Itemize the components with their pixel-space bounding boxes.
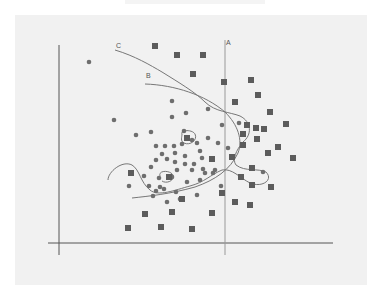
circle-point (174, 190, 179, 195)
square-point (255, 92, 261, 98)
square-point (221, 79, 227, 85)
circle-point (162, 187, 167, 192)
circle-point (149, 165, 154, 170)
circle-point (112, 118, 117, 123)
circle-point (192, 162, 197, 167)
square-point (152, 43, 158, 49)
circle-point (151, 194, 156, 199)
square-point (240, 142, 246, 148)
circle-point (211, 171, 216, 176)
circle-point (237, 121, 242, 126)
circle-point (158, 185, 163, 190)
square-point (158, 224, 164, 230)
square-point (142, 211, 148, 217)
circle-point (200, 156, 205, 161)
square-point (209, 210, 215, 216)
circle-point (219, 184, 224, 189)
circle-point (170, 115, 175, 120)
circle-point (149, 130, 154, 135)
circle-point (87, 60, 92, 65)
circle-point (203, 171, 208, 176)
circle-point (163, 144, 168, 149)
circle-point (185, 180, 190, 185)
boundary-a-label: A (226, 39, 231, 46)
square-point (268, 184, 274, 190)
circle-point (195, 141, 200, 146)
circle-point (198, 149, 203, 154)
square-point (229, 154, 235, 160)
circle-point (147, 184, 152, 189)
circle-point (154, 144, 159, 149)
circle-point (173, 160, 178, 165)
square-point (290, 155, 296, 161)
square-point (174, 52, 180, 58)
circle-point (154, 158, 159, 163)
square-point (232, 99, 238, 105)
circle-point (173, 151, 178, 156)
square-point (209, 156, 215, 162)
boundary-c-label: C (116, 42, 121, 49)
circle-point (154, 189, 159, 194)
circle-point (201, 167, 206, 172)
circle-point (165, 200, 170, 205)
circle-point (182, 129, 187, 134)
square-point (249, 165, 255, 171)
square-point (240, 131, 246, 137)
square-point (275, 144, 281, 150)
boundary-b-label: B (146, 72, 151, 79)
circle-point (195, 193, 200, 198)
circle-point (180, 142, 185, 147)
circle-point (190, 138, 195, 143)
circle-point (142, 174, 147, 179)
square-point (169, 209, 175, 215)
square-point (248, 77, 254, 83)
circle-point (127, 184, 132, 189)
circle-point (184, 111, 189, 116)
circle-point (175, 168, 180, 173)
square-point (219, 190, 225, 196)
circle-point (206, 107, 211, 112)
circle-point (190, 168, 195, 173)
square-point (125, 225, 131, 231)
circle-point (226, 146, 231, 151)
circle-point (172, 144, 177, 149)
scatter-plot: A B C (0, 0, 382, 299)
circle-point (183, 154, 188, 159)
square-point (265, 150, 271, 156)
circle-point (216, 141, 221, 146)
square-point (247, 202, 253, 208)
circle-point (220, 123, 225, 128)
square-point (200, 52, 206, 58)
circle-point (160, 152, 165, 157)
square-point (261, 126, 267, 132)
circle-point (134, 133, 139, 138)
circle-point (206, 136, 211, 141)
square-point (267, 109, 273, 115)
circle-point (198, 178, 203, 183)
square-point (128, 170, 134, 176)
square-point (189, 226, 195, 232)
circle-point (183, 162, 188, 167)
square-point (190, 71, 196, 77)
square-point (184, 135, 190, 141)
circle-point (170, 99, 175, 104)
square-point (249, 182, 255, 188)
square-point (244, 122, 250, 128)
circle-point (157, 176, 162, 181)
square-point (238, 174, 244, 180)
square-point (166, 174, 172, 180)
square-point (253, 125, 259, 131)
circle-point (165, 157, 170, 162)
circle-point (261, 170, 266, 175)
square-point (254, 136, 260, 142)
square-point (283, 121, 289, 127)
square-point (179, 196, 185, 202)
square-point (232, 199, 238, 205)
